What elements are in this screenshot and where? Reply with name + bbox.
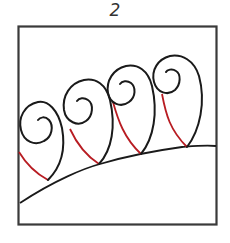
curl-2 <box>64 80 113 164</box>
quilt-motif-diagram <box>0 0 230 243</box>
red-path-3 <box>113 102 141 154</box>
travel-paths <box>19 94 187 180</box>
curl-1 <box>20 102 63 180</box>
red-path-4 <box>162 94 187 147</box>
red-path-2 <box>70 129 99 164</box>
curl-4 <box>153 56 202 147</box>
frame-border <box>19 27 217 225</box>
baseline-curve <box>20 146 216 203</box>
red-path-1 <box>19 152 48 180</box>
